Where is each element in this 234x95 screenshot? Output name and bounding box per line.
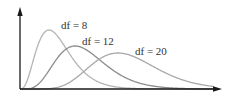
label-df-12: df = 12: [82, 35, 114, 47]
label-df-8: df = 8: [61, 19, 88, 31]
chi-square-chart: df = 8 df = 12 df = 20: [0, 0, 234, 95]
y-axis-arrow-icon: [17, 7, 22, 16]
x-axis-arrow-icon: [213, 86, 222, 91]
label-df-20: df = 20: [135, 45, 167, 57]
